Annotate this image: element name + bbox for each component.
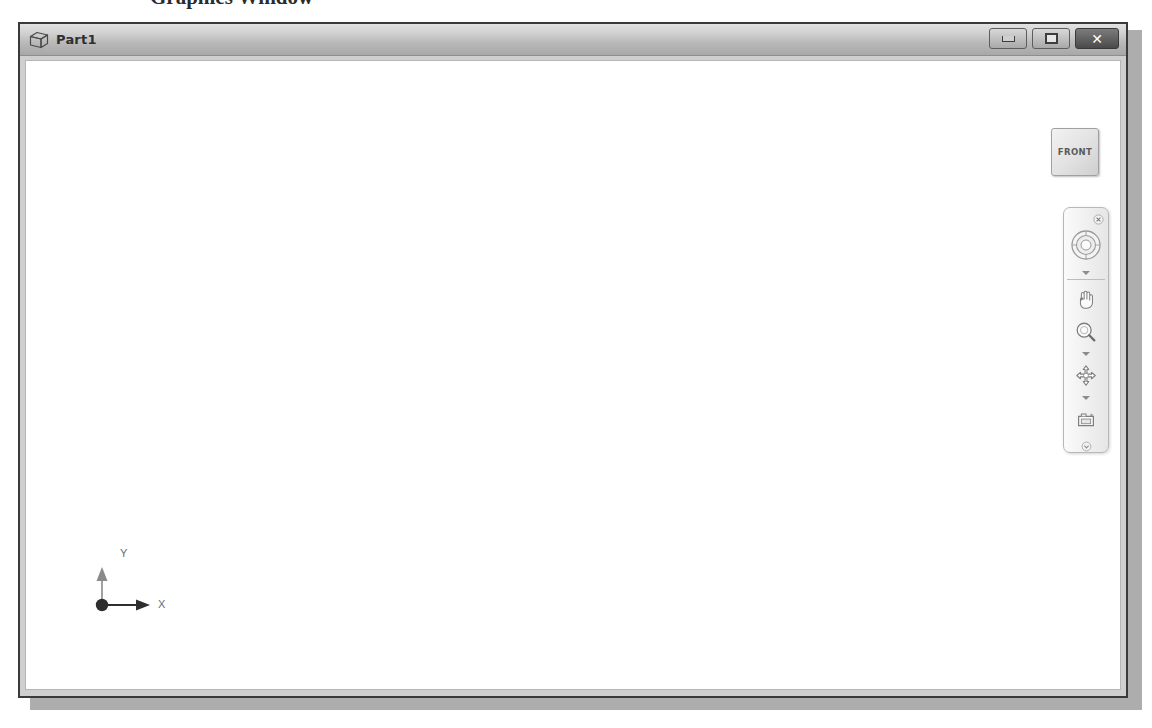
camera-icon[interactable] [1066, 403, 1106, 436]
window-controls: ✕ [989, 28, 1119, 49]
title-bar[interactable]: Part1 ✕ [20, 24, 1126, 56]
wheel-dropdown-arrow-icon[interactable] [1066, 267, 1106, 278]
application-window: Part1 ✕ FRONT [18, 22, 1128, 698]
close-button[interactable]: ✕ [1075, 28, 1119, 49]
pan-hand-icon[interactable] [1066, 282, 1106, 315]
navigation-bar [1063, 207, 1109, 453]
navbar-divider [1067, 279, 1105, 280]
view-cube[interactable]: FRONT [1051, 128, 1099, 176]
minimize-button[interactable] [989, 28, 1027, 49]
caption-text: Graphics Window [150, 0, 313, 10]
graphics-canvas[interactable]: FRONT [25, 60, 1121, 690]
orbit-icon[interactable] [1066, 359, 1106, 392]
orbit-dropdown-arrow-icon[interactable] [1066, 392, 1106, 403]
axis-label-y: Y [120, 547, 127, 559]
zoom-dropdown-arrow-icon[interactable] [1066, 348, 1106, 359]
caption-strip: Graphics Window [0, 0, 1152, 14]
navbar-menu-icon[interactable] [1081, 438, 1092, 449]
cube-icon [28, 30, 50, 50]
steering-wheel-icon[interactable] [1066, 223, 1106, 267]
navbar-close-icon[interactable] [1093, 211, 1104, 222]
restore-button[interactable] [1032, 28, 1070, 49]
axis-label-x: X [158, 598, 165, 610]
minimize-icon [1002, 36, 1015, 42]
zoom-magnifier-icon[interactable] [1066, 315, 1106, 348]
view-cube-label: FRONT [1058, 147, 1093, 157]
restore-icon [1045, 33, 1058, 44]
window-title: Part1 [56, 32, 97, 47]
close-icon: ✕ [1091, 32, 1103, 46]
axis-indicator: Y X [92, 547, 172, 625]
